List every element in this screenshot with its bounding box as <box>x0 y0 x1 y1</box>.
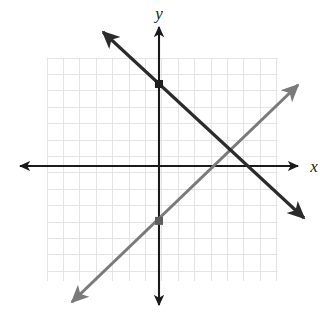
point-marker-dark-y-intercept <box>155 80 163 88</box>
coordinate-plane-figure: y x <box>0 0 333 321</box>
x-axis-label: x <box>309 157 318 176</box>
y-axis-label: y <box>153 4 163 23</box>
point-marker-gray-y-intercept <box>155 217 163 225</box>
figure-background <box>0 0 333 321</box>
graph-canvas: y x <box>0 0 333 321</box>
